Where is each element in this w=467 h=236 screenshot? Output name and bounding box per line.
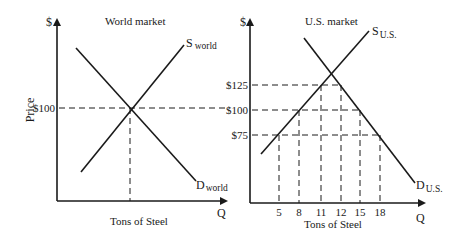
us-x-axis-symbol: Q (416, 211, 425, 225)
world-x-axis-label: Tons of Steel (110, 215, 168, 227)
us-supply-curve (261, 31, 369, 154)
us-x-tick-12: 12 (336, 206, 347, 218)
world-supply-label: Sworld (186, 36, 217, 51)
us-y-axis-symbol: $ (240, 15, 246, 29)
world-market-title: World market (105, 15, 166, 27)
world-y-axis-symbol: $ (46, 15, 52, 29)
us-market-title: U.S. market (305, 15, 358, 27)
us-x-tick-8: 8 (296, 206, 302, 218)
us-x-tick-labels: 5811121518 (276, 206, 386, 218)
us-supply-label: SU.S. (372, 24, 397, 40)
us-price-labels: $125$100$75 (226, 79, 249, 141)
us-market-panel: $ U.S. market $125$100$75 SU.S. DU.S. 58… (226, 15, 443, 230)
world-x-axis-symbol: Q (217, 206, 226, 220)
world-market-panel: $ World market Price $100 Sworld Dworld … (23, 15, 230, 227)
us-price-label-125: $125 (226, 79, 249, 91)
world-price-label-100: $100 (33, 102, 56, 114)
world-supply-curve (81, 45, 184, 172)
us-x-axis-label: Tons of Steel (304, 218, 362, 230)
world-demand-curve (76, 48, 196, 181)
us-x-tick-18: 18 (375, 206, 387, 218)
us-demand-label: DU.S. (416, 178, 443, 194)
us-x-tick-11: 11 (316, 206, 327, 218)
tariff-diagram: $ World market Price $100 Sworld Dworld … (0, 0, 467, 236)
us-price-label-75: $75 (232, 129, 249, 141)
us-x-tick-15: 15 (355, 206, 367, 218)
us-price-label-100: $100 (226, 104, 249, 116)
us-dash-lines (252, 85, 380, 203)
world-demand-label: Dworld (196, 178, 228, 193)
us-x-tick-5: 5 (276, 206, 282, 218)
